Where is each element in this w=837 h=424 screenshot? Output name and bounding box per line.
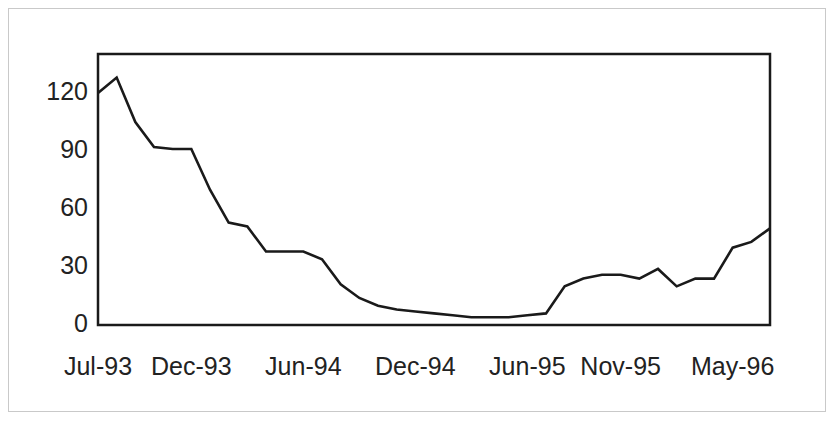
y-tick-label-90: 90: [60, 135, 88, 164]
y-tick-label-0: 0: [74, 309, 88, 338]
chart-screenshot: 0306090120 Jul-93Dec-93Jun-94Dec-94Jun-9…: [0, 0, 837, 424]
plot-area-border: [98, 54, 770, 325]
line-chart: 0306090120 Jul-93Dec-93Jun-94Dec-94Jun-9…: [0, 0, 837, 424]
y-tick-label-60: 60: [60, 193, 88, 222]
y-tick-label-30: 30: [60, 251, 88, 280]
y-tick-label-120: 120: [46, 77, 88, 106]
x-tick-label-May-96: May-96: [663, 352, 803, 381]
